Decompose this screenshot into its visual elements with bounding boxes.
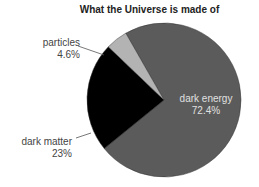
dark-matter-leader-line (76, 133, 91, 138)
dark-energy-label-name: dark energy (168, 93, 244, 105)
dark-matter-label: dark matter 23% (0, 136, 72, 160)
dark-energy-label-value: 72.4% (168, 105, 244, 117)
particles-leader-line (78, 46, 104, 55)
particles-label-value: 4.6% (20, 49, 80, 61)
dark-matter-label-name: dark matter (0, 136, 72, 148)
particles-label-name: particles (20, 37, 80, 49)
dark-energy-label: dark energy 72.4% (168, 93, 244, 117)
dark-matter-label-value: 23% (0, 148, 72, 160)
particles-label: particles 4.6% (20, 37, 80, 61)
